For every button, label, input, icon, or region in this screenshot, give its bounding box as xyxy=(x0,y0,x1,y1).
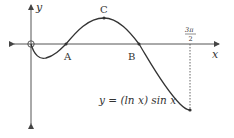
y-axis-label: y xyxy=(35,1,43,14)
fraction-numerator: 3π xyxy=(185,26,194,34)
point-b-label: B xyxy=(128,51,135,62)
equation-label: y = (ln x) sin x xyxy=(98,94,176,106)
point-a-dot xyxy=(65,43,68,46)
point-c-label: C xyxy=(100,4,108,15)
x-axis-label: x xyxy=(212,48,219,61)
end-point-dot xyxy=(188,108,191,111)
fraction-denominator: 2 xyxy=(189,35,193,43)
point-c-dot xyxy=(103,17,106,20)
point-a-label: A xyxy=(63,51,72,62)
function-graph: y x A C B 3π 2 y = (ln x) sin x xyxy=(0,0,234,138)
point-b-dot xyxy=(138,43,141,46)
